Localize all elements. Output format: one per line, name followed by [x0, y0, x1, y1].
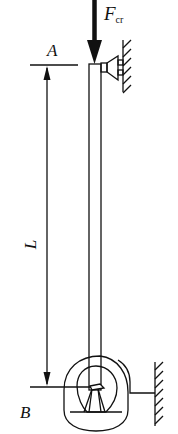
length-label: L	[22, 240, 39, 249]
force-subscript: cr	[116, 14, 124, 25]
point-a-label: A	[47, 42, 57, 59]
force-label: Fcr	[104, 4, 123, 25]
bottom-clamp-icon	[64, 356, 155, 431]
length-dimension	[44, 66, 51, 386]
bottom-wall-icon	[155, 362, 163, 426]
column	[89, 64, 101, 390]
point-b-label: B	[20, 404, 30, 421]
buckling-column-diagram	[0, 0, 178, 434]
force-symbol: F	[104, 3, 116, 24]
top-support-icon	[101, 40, 131, 93]
force-arrow-icon	[87, 0, 102, 64]
